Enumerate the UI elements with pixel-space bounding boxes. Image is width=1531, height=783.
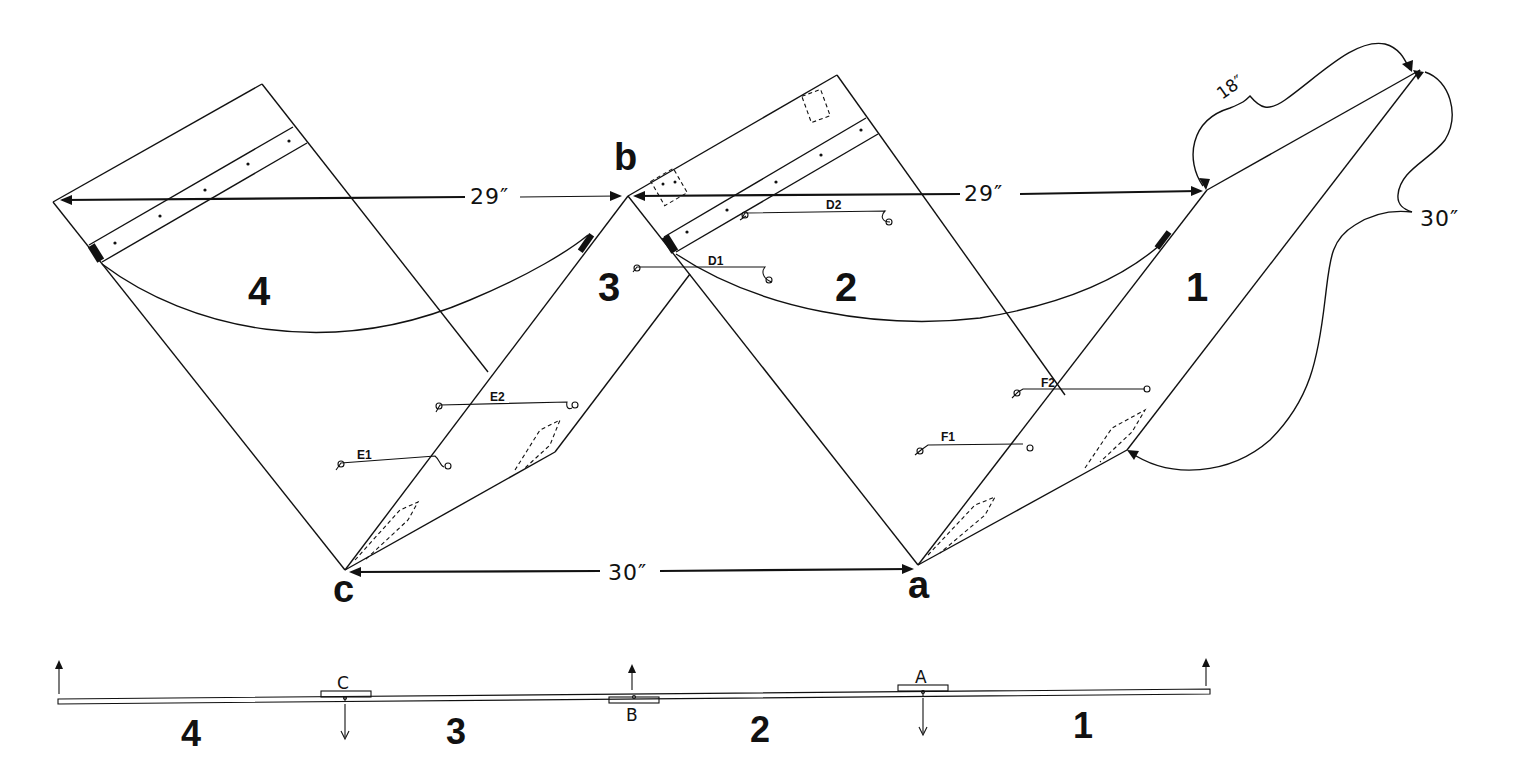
- cord-d1: [633, 265, 772, 283]
- panel-number-4: 4: [248, 269, 271, 313]
- cord-f2: [1012, 386, 1150, 398]
- dimension-label-18: 18″: [1213, 71, 1247, 103]
- cord-d2: [740, 211, 892, 225]
- folding-panel-diagram: 29″ 29″ 30″ 18″ 30″ D2 D1: [0, 0, 1531, 783]
- hinge-label-a: A: [915, 667, 927, 687]
- side-view-number-4: 4: [181, 713, 201, 754]
- side-view-number-3: 3: [446, 711, 466, 752]
- dimension-label-30-bottom: 30″: [608, 560, 647, 585]
- cord-label-d2: D2: [826, 198, 842, 212]
- side-view-number-2: 2: [750, 709, 770, 750]
- side-view-number-1: 1: [1073, 705, 1093, 746]
- dimension-18-curve: [1193, 43, 1413, 190]
- side-view-bar: [58, 685, 1210, 704]
- panel-number-2: 2: [835, 265, 857, 309]
- dimension-label-30-curve: 30″: [1420, 206, 1459, 231]
- dimension-label-29-right: 29″: [964, 181, 1003, 206]
- panel-number-1: 1: [1186, 265, 1208, 309]
- cord-label-e2: E2: [490, 390, 505, 404]
- cord-label-f2: F2: [1041, 376, 1055, 390]
- panel-1-outline: [918, 70, 1420, 565]
- cord-label-f1: F1: [941, 430, 955, 444]
- dimension-29-left: [60, 191, 622, 205]
- cord-f1: [915, 444, 1033, 455]
- panel-2-outline: [628, 75, 1160, 565]
- vertex-label-b: b: [614, 136, 637, 178]
- hinge-label-c: C: [337, 673, 349, 693]
- vertex-label-a: a: [908, 564, 930, 606]
- panel-4-outline: [53, 84, 588, 570]
- cord-label-e1: E1: [357, 448, 372, 462]
- dimension-label-29-left: 29″: [470, 184, 509, 209]
- cord-e2: [436, 402, 578, 412]
- hinge-label-b: B: [626, 705, 638, 725]
- vertex-label-c: c: [333, 568, 354, 610]
- cord-label-d1: D1: [708, 254, 724, 268]
- panel-number-3: 3: [598, 265, 620, 309]
- cord-e1: [336, 456, 451, 470]
- panel-3-outline: [345, 196, 690, 570]
- dimension-30-curve: [1127, 70, 1452, 470]
